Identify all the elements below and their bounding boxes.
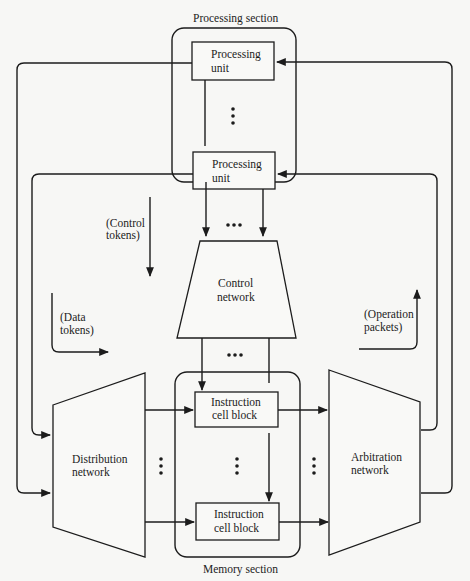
vertical-ellipsis-left [159, 457, 163, 475]
control-network-line1: Control [218, 277, 253, 289]
distribution-network-line2: network [72, 466, 110, 478]
data-tokens-line2: tokens) [60, 324, 94, 337]
distribution-network-line1: Distribution [72, 453, 128, 465]
processing-unit-bottom-line2: unit [212, 172, 231, 184]
arbitration-network-line2: network [351, 464, 389, 476]
instruction-cell-block-top-line1: Instruction [211, 396, 261, 408]
data-tokens-annotation: (Data tokens) [52, 293, 108, 352]
memory-section-label: Memory section [203, 563, 278, 576]
instruction-cell-block-bottom: Instruction cell block [196, 503, 279, 540]
processing-unit-top: Processing unit [192, 42, 274, 80]
instruction-cell-block-top-line2: cell block [212, 409, 257, 421]
control-tokens-annotation: (Control tokens) [106, 197, 150, 276]
operation-packets-line2: packets) [364, 321, 402, 334]
distribution-network: Distribution network [53, 373, 145, 557]
operation-packets-annotation: (Operation packets) [359, 290, 417, 349]
instruction-cell-block-top: Instruction cell block [195, 392, 278, 427]
processing-unit-bottom-line1: Processing [212, 158, 262, 171]
control-tokens-line2: tokens) [106, 229, 140, 242]
processing-section-label: Processing section [193, 12, 279, 25]
data-tokens-line1: (Data [60, 311, 86, 324]
horizontal-ellipsis-top [226, 223, 242, 227]
operation-packets-line1: (Operation [364, 308, 414, 321]
control-network-line2: network [217, 291, 255, 303]
arbitration-network-line1: Arbitration [351, 451, 402, 463]
processing-unit-top-line2: unit [211, 62, 230, 74]
control-network: Control network [177, 241, 296, 338]
horizontal-ellipsis-middle [227, 353, 243, 357]
instruction-cell-block-bottom-line1: Instruction [214, 508, 264, 520]
vertical-ellipsis-processing [231, 107, 235, 125]
vertical-ellipsis-right [312, 457, 316, 475]
processing-unit-top-line1: Processing [211, 48, 261, 61]
arbitration-network: Arbitration network [329, 370, 420, 555]
dataflow-diagram: Processing section Processing unit Proce… [0, 0, 470, 581]
vertical-ellipsis-memory [235, 457, 239, 475]
instruction-cell-block-bottom-line2: cell block [214, 522, 259, 534]
